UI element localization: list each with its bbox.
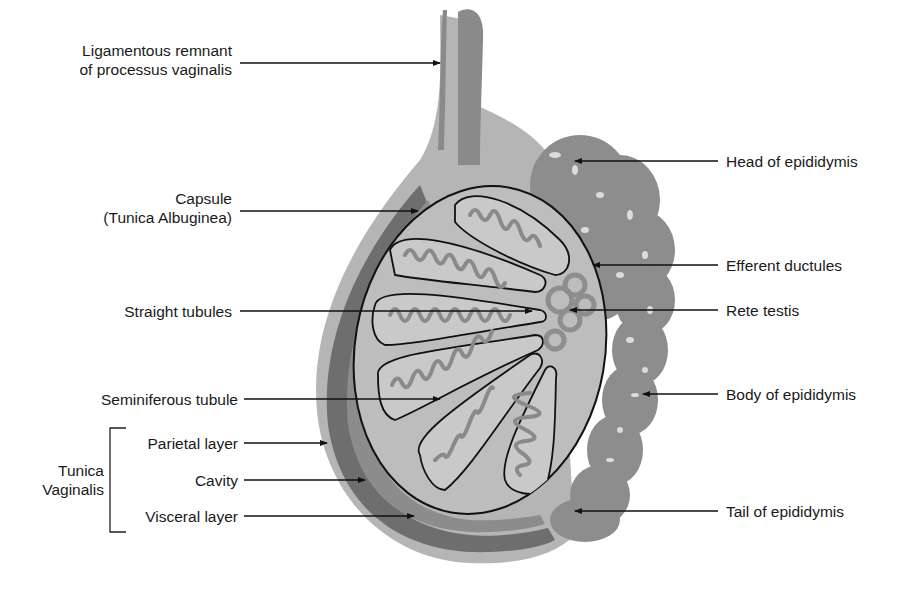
label-line: Body of epididymis [726,385,856,404]
label-seminiferous-tubule: Seminiferous tubule [40,390,238,409]
label-efferent-ductules: Efferent ductules [726,256,842,275]
label-visceral-layer: Visceral layer [40,507,238,526]
label-head-of-epididymis: Head of epididymis [726,152,858,171]
label-line: Tunica [10,461,104,480]
label-line: Visceral layer [40,507,238,526]
label-line: Efferent ductules [726,256,842,275]
label-line: Rete testis [726,301,799,320]
label-rete-testis: Rete testis [726,301,799,320]
testis-diagram: Ligamentous remnant of processus vaginal… [0,0,913,590]
label-straight-tubules: Straight tubules [40,302,232,321]
label-tunica-vaginalis: Tunica Vaginalis [10,461,104,499]
label-ligamentous-remnant: Ligamentous remnant of processus vaginal… [40,41,232,79]
label-tail-of-epididymis: Tail of epididymis [726,502,844,521]
label-line: Vaginalis [10,480,104,499]
label-line: of processus vaginalis [40,60,232,79]
label-body-of-epididymis: Body of epididymis [726,385,856,404]
label-line: Head of epididymis [726,152,858,171]
label-line: Capsule [40,189,232,208]
label-line: Straight tubules [40,302,232,321]
label-line: Ligamentous remnant [40,41,232,60]
label-capsule: Capsule (Tunica Albuginea) [40,189,232,227]
label-line: Seminiferous tubule [40,390,238,409]
label-parietal-layer: Parietal layer [40,434,238,453]
label-line: (Tunica Albuginea) [40,208,232,227]
label-line: Parietal layer [40,434,238,453]
label-line: Tail of epididymis [726,502,844,521]
